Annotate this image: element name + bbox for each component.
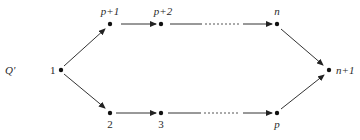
path-diagram: Q' 1 p+1 p+2 n n+1 2 3 p: [0, 0, 360, 140]
label-node-2: 2: [107, 118, 113, 130]
edge-1-to-p-plus-1: [64, 29, 105, 66]
node-n-plus-1: [327, 68, 331, 72]
label-node-1: 1: [50, 64, 56, 76]
node-3: [159, 111, 163, 115]
label-node-3: 3: [158, 118, 164, 130]
edge-p-to-n-plus-1: [281, 75, 324, 109]
node-n: [275, 22, 279, 26]
label-node-p: p: [273, 118, 280, 130]
edge-1-to-2: [64, 74, 105, 108]
label-node-p-plus-1: p+1: [100, 5, 119, 17]
node-2: [108, 111, 112, 115]
node-p: [275, 111, 279, 115]
node-1: [59, 68, 63, 72]
label-node-n: n: [274, 5, 280, 17]
label-node-n-plus-1: n+1: [336, 64, 354, 76]
edge-n-to-n-plus-1: [281, 29, 323, 65]
node-p-plus-2: [159, 22, 163, 26]
graph-label-q-prime: Q': [5, 64, 16, 76]
node-p-plus-1: [108, 22, 112, 26]
label-node-p-plus-2: p+2: [153, 5, 173, 17]
